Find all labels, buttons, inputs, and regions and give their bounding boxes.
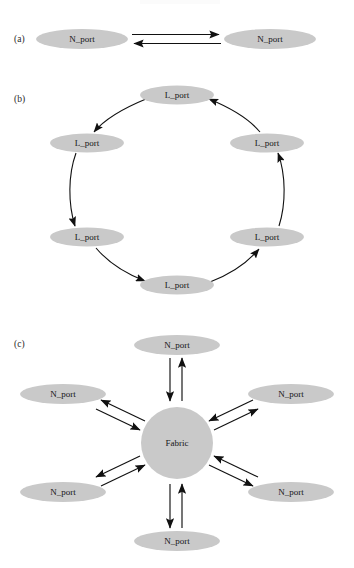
panel-b-edge-bottom-to-lowerright — [210, 249, 259, 282]
panel-c-node-bottom-label: N_port — [164, 536, 190, 546]
panel-c-node-upper-right-label: N_port — [278, 389, 304, 399]
panel-c-label: (c) — [14, 339, 25, 350]
panel-c-node-lower-right-label: N_port — [278, 487, 304, 497]
panel-b-node-bottom-label: L_port — [165, 280, 190, 290]
panel-b-node-upper-right-label: L_port — [255, 138, 280, 148]
panel-a-node-left-label: N_port — [69, 34, 95, 44]
panel-b: (b) L_port L_port L_port L_port L_port L… — [14, 86, 304, 295]
panel-b-node-lower-left-label: L_port — [75, 232, 100, 242]
panel-b-label: (b) — [14, 94, 25, 105]
panel-b-edge-top-to-upperleft — [94, 99, 146, 132]
panel-c-node-lower-left-label: N_port — [50, 487, 76, 497]
top-edge-artifact — [140, 0, 220, 4]
panel-b-node-upper-left-label: L_port — [75, 138, 100, 148]
panel-c-node-top-label: N_port — [164, 340, 190, 350]
panel-c-link-upperleft-inbound — [96, 409, 140, 430]
panel-c-link-upperright-inbound — [209, 400, 253, 421]
diagram-canvas: (a) N_port N_port (b) L_port L_port L_ — [0, 0, 354, 568]
panel-a: (a) N_port N_port — [14, 29, 316, 49]
panel-c-link-lowerleft-inbound — [101, 465, 145, 486]
panel-a-label: (a) — [14, 34, 25, 45]
panel-c-link-lowerleft-outbound — [96, 456, 140, 477]
panel-b-edge-lowerleft-to-bottom — [96, 248, 145, 281]
panel-c-link-lowerright-inbound — [214, 456, 258, 477]
panel-c-fabric-label: Fabric — [166, 438, 189, 448]
panel-b-node-top-label: L_port — [165, 90, 190, 100]
panel-c-link-lowerright-outbound — [209, 465, 253, 486]
panel-c-node-upper-left-label: N_port — [50, 389, 76, 399]
panel-b-edge-lowerright-to-upperright — [278, 153, 284, 226]
panel-c-link-upperright-outbound — [214, 409, 258, 430]
panel-b-edge-upperright-to-top — [209, 99, 260, 132]
figure-container: (a) N_port N_port (b) L_port L_port L_ — [0, 0, 354, 568]
panel-a-node-right-label: N_port — [257, 34, 283, 44]
panel-c: (c) Fabric N_port — [14, 335, 334, 551]
panel-c-link-upperleft-outbound — [101, 400, 145, 421]
panel-b-node-lower-right-label: L_port — [255, 232, 280, 242]
panel-b-edge-upperleft-to-lowerleft — [70, 153, 76, 226]
